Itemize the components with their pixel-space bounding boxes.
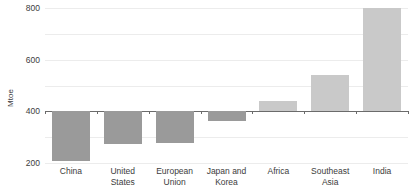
bar	[208, 111, 246, 121]
y-axis-tick-label: 800	[26, 3, 40, 13]
x-axis-category-label-line: United	[97, 166, 149, 177]
bar	[104, 111, 142, 143]
y-axis-title-text: Mtoe	[6, 89, 15, 107]
bar	[259, 101, 297, 111]
x-axis-category-label: SoutheastAsia	[304, 166, 356, 188]
x-axis-category-label-line: European	[149, 166, 201, 177]
bar	[52, 111, 90, 161]
x-axis-category-label-line: Japan and	[201, 166, 253, 177]
x-axis-category-label: India	[356, 166, 408, 177]
bar	[311, 75, 349, 112]
bar-chart: Mtoe 8006004002000-200-400 ChinaUnitedSt…	[0, 0, 415, 195]
y-axis-title: Mtoe	[2, 93, 20, 102]
x-axis-category-label-line: States	[97, 177, 149, 188]
x-axis-category-label-line: China	[45, 166, 97, 177]
x-axis-category-label: China	[45, 166, 97, 177]
x-axis-category-label-line: Union	[149, 177, 201, 188]
x-axis-tick-mark	[408, 111, 409, 114]
gridline: -400	[45, 163, 408, 164]
x-axis-tick-mark	[304, 111, 305, 114]
x-axis-tick-mark	[97, 111, 98, 114]
y-axis-tick-label: 200	[26, 158, 40, 168]
x-axis-tick-mark	[149, 111, 150, 114]
bar	[156, 111, 194, 143]
x-axis-tick-mark	[356, 111, 357, 114]
x-axis-tick-mark	[45, 111, 46, 114]
plot-area: 8006004002000-200-400	[45, 8, 408, 163]
x-axis-tick-mark	[201, 111, 202, 114]
bar-series	[45, 8, 408, 163]
x-axis-category-label: Africa	[252, 166, 304, 177]
x-axis-category-label: UnitedStates	[97, 166, 149, 188]
y-axis-tick-label: 400	[26, 106, 40, 116]
x-axis-category-label: Japan andKorea	[201, 166, 253, 188]
x-axis-category-label-line: Africa	[252, 166, 304, 177]
x-axis-labels: ChinaUnitedStatesEuropeanUnionJapan andK…	[45, 166, 408, 195]
x-axis-category-label-line: Korea	[201, 177, 253, 188]
x-axis-category-label-line: India	[356, 166, 408, 177]
x-axis-category-label-line: Southeast	[304, 166, 356, 177]
y-axis-tick-label: 600	[26, 55, 40, 65]
x-axis-category-label: EuropeanUnion	[149, 166, 201, 188]
x-axis-tick-mark	[252, 111, 253, 114]
x-axis-category-label-line: Asia	[304, 177, 356, 188]
bar	[363, 8, 401, 111]
